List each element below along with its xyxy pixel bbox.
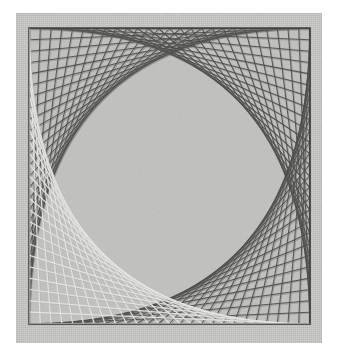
string-art-stitching: [28, 27, 311, 325]
artwork-frame: [0, 0, 342, 360]
